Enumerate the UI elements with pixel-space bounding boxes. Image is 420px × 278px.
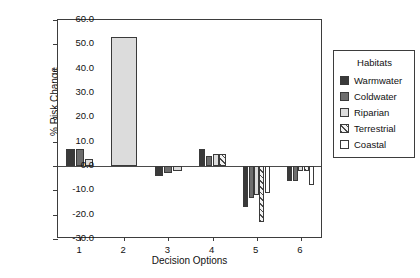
x-axis-tick-mark <box>213 237 214 241</box>
bar-warmwater-6 <box>287 166 292 181</box>
x-axis-title: Decision Options <box>57 255 322 266</box>
y-axis-tick-label: 40.0 <box>42 63 94 73</box>
swatch-solid-white <box>340 140 349 149</box>
legend-item-coldwater[interactable]: Coldwater <box>340 91 409 102</box>
legend-item-label: Warmwater <box>354 76 402 86</box>
legend: Habitats WarmwaterColdwaterRiparianTerre… <box>333 50 415 158</box>
bar-riparian-4 <box>213 154 219 166</box>
y-axis-tick-label: 20.0 <box>42 111 94 121</box>
y-axis-tick-label: -30.0 <box>42 233 94 243</box>
x-axis-tick-mark <box>301 237 302 241</box>
legend-title: Habitats <box>340 57 409 68</box>
bar-terrestrial-5 <box>259 166 264 222</box>
x-axis-tick-label: 2 <box>103 245 143 255</box>
bar-terrestrial-6 <box>304 166 309 171</box>
bar-warmwater-3 <box>155 166 164 176</box>
x-axis-tick-mark <box>124 237 125 241</box>
bar-coastal-5 <box>265 166 270 193</box>
bar-terrestrial-4 <box>219 154 225 166</box>
x-axis-tick-label: 3 <box>147 245 187 255</box>
y-axis-tick-label: -20.0 <box>42 209 94 219</box>
y-axis-tick-label: 50.0 <box>42 38 94 48</box>
swatch-solid-light <box>340 108 349 117</box>
swatch-diagonal-hatch <box>340 124 349 133</box>
swatch-solid-medium <box>340 92 349 101</box>
bar-riparian-3 <box>173 166 182 171</box>
bar-coastal-6 <box>309 166 314 185</box>
bar-coldwater-4 <box>206 156 212 166</box>
bar-warmwater-5 <box>243 166 248 207</box>
y-axis-tick-label: 10.0 <box>42 136 94 146</box>
legend-item-label: Coldwater <box>354 92 397 102</box>
legend-item-label: Coastal <box>354 140 386 150</box>
plot-area <box>57 19 322 238</box>
legend-item-warmwater[interactable]: Warmwater <box>340 75 409 86</box>
legend-item-label: Riparian <box>354 108 389 118</box>
legend-item-riparian[interactable]: Riparian <box>340 107 409 118</box>
x-axis-tick-label: 1 <box>59 245 99 255</box>
bar-coldwater-5 <box>249 166 254 198</box>
bar-riparian-2 <box>111 37 138 166</box>
legend-items: WarmwaterColdwaterRiparianTerrestrialCoa… <box>340 75 409 150</box>
bar-riparian-5 <box>254 166 259 195</box>
x-axis-tick-label: 4 <box>192 245 232 255</box>
x-axis-tick-label: 5 <box>236 245 276 255</box>
x-axis-tick-mark <box>257 237 258 241</box>
y-axis-tick-label: 30.0 <box>42 87 94 97</box>
y-axis-tick-label: 0.0 <box>42 160 94 170</box>
legend-item-terrestrial[interactable]: Terrestrial <box>340 123 409 134</box>
bar-coldwater-6 <box>293 166 298 181</box>
chart-figure: % Risk Change Decision Options Habitats … <box>0 0 420 278</box>
swatch-solid-dark <box>340 76 349 85</box>
legend-item-coastal[interactable]: Coastal <box>340 139 409 150</box>
zero-baseline <box>58 166 321 167</box>
bar-warmwater-4 <box>199 149 205 166</box>
bar-coldwater-3 <box>164 166 173 173</box>
legend-item-label: Terrestrial <box>354 124 396 134</box>
x-axis-tick-label: 6 <box>280 245 320 255</box>
y-axis-tick-label: -10.0 <box>42 184 94 194</box>
bar-riparian-6 <box>298 166 303 171</box>
x-axis-tick-mark <box>168 237 169 241</box>
y-axis-tick-label: 60.0 <box>42 14 94 24</box>
